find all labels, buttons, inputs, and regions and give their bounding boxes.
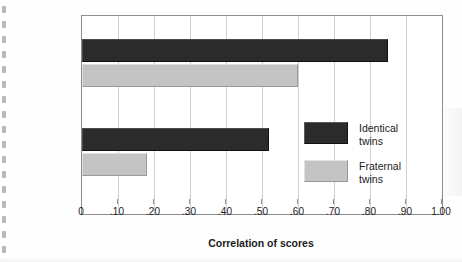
legend-label-line2: twins: [359, 135, 398, 148]
x-tick-mark: [369, 199, 370, 204]
legend-label-line1: Fraternal: [359, 160, 401, 173]
x-tick-mark: [405, 199, 406, 204]
scan-tick: [2, 201, 6, 208]
scan-tick: [2, 246, 6, 253]
legend-label: Identicaltwins: [359, 122, 398, 147]
x-tick-label: .30: [169, 206, 209, 217]
x-tick-label: .20: [133, 206, 173, 217]
x-tick-mark: [333, 199, 334, 204]
legend-label-line2: twins: [359, 173, 401, 186]
x-tick-label: .90: [385, 206, 425, 217]
x-axis-title: Correlation of scores: [81, 237, 441, 249]
legend-swatch: [304, 122, 348, 144]
x-tick-label: 1.00: [421, 206, 461, 217]
x-tick-mark: [297, 199, 298, 204]
x-tick-label: .10: [97, 206, 137, 217]
x-tick-label: .60: [277, 206, 317, 217]
plot-area: IdenticaltwinsFraternaltwins: [81, 15, 443, 215]
scan-tick: [2, 126, 6, 133]
scan-edge-marks: [0, 0, 9, 262]
legend: IdenticaltwinsFraternaltwins: [304, 122, 434, 198]
scan-tick: [2, 171, 6, 178]
x-tick-mark: [189, 199, 190, 204]
scan-tick: [2, 111, 6, 118]
scan-tick: [2, 6, 6, 13]
scan-tick: [2, 81, 6, 88]
scan-tick: [2, 141, 6, 148]
legend-label: Fraternaltwins: [359, 160, 401, 185]
scan-bottom-edge: [0, 257, 462, 262]
twin-correlation-figure: IntelligencePersonality(extraversion) Id…: [0, 0, 462, 262]
scan-right-edge: [440, 108, 462, 196]
bar: [82, 64, 298, 87]
legend-item: Identicaltwins: [304, 122, 434, 147]
x-tick-mark: [117, 199, 118, 204]
bar: [82, 153, 147, 176]
x-tick-label: .40: [205, 206, 245, 217]
scan-tick: [2, 231, 6, 238]
legend-swatch: [304, 160, 348, 182]
scan-tick: [2, 216, 6, 223]
x-tick-mark: [441, 199, 442, 204]
scan-tick: [2, 66, 6, 73]
bar: [82, 39, 388, 62]
x-tick-mark: [225, 199, 226, 204]
legend-item: Fraternaltwins: [304, 160, 434, 185]
x-tick-label: .70: [313, 206, 353, 217]
x-tick-mark: [153, 199, 154, 204]
x-tick-label: .50: [241, 206, 281, 217]
x-tick-mark: [81, 199, 82, 204]
scan-tick: [2, 51, 6, 58]
scan-tick: [2, 186, 6, 193]
scan-tick: [2, 156, 6, 163]
x-tick-label: 0: [61, 206, 101, 217]
scan-tick: [2, 96, 6, 103]
x-tick-mark: [261, 199, 262, 204]
scan-tick: [2, 21, 6, 28]
scan-tick: [2, 36, 6, 43]
bar: [82, 128, 269, 151]
x-tick-label: .80: [349, 206, 389, 217]
legend-label-line1: Identical: [359, 122, 398, 135]
